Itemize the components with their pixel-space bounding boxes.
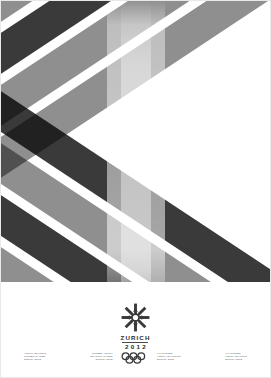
credit-block-2: WINTER YOUTHOLYMPIC GAMESZURICH 2012 — [90, 352, 112, 362]
credit-block-4: XXI WINTERYOUTH OLYMPICZURICH 2012 — [225, 352, 247, 362]
credit-block-3: XXI WINTERYOUTH OLYMPICSZURICH 2012 — [157, 352, 181, 362]
wordmark-city: ZURICH — [121, 334, 151, 341]
credit-block-1: YOUTH OLYMPICWINTER GAMESZURICH 2012 — [24, 352, 46, 362]
credit-line: ZURICH 2012 — [24, 358, 41, 361]
geometric-artwork — [0, 0, 271, 320]
wordmark-year: 2012 — [123, 343, 148, 350]
credits-row: YOUTH OLYMPICWINTER GAMESZURICH 2012WINT… — [0, 352, 271, 362]
credit-line: ZURICH 2012 — [157, 358, 174, 361]
credit-line: ZURICH 2012 — [225, 358, 242, 361]
poster-canvas: ZURICH 2012 YOUTH OLYMPICWINTER GAMESZUR… — [0, 0, 271, 378]
credit-line: ZURICH 2012 — [96, 358, 113, 361]
snowflake-icon — [121, 303, 150, 332]
wordmark: ZURICH 2012 — [121, 334, 151, 350]
